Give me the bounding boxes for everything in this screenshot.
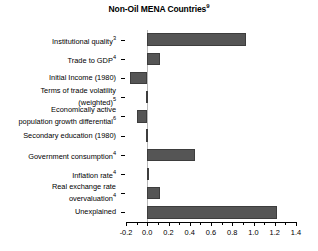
x-axis-tick-major	[275, 222, 276, 226]
chart-title-text: Non-Oil MENA Countries	[109, 4, 207, 14]
x-axis-tick-major	[296, 222, 297, 226]
bar-row	[126, 33, 296, 46]
x-axis-tick-label: 1.2	[270, 228, 280, 237]
y-axis-tick	[121, 155, 125, 156]
x-axis-tick-label: 0.6	[206, 228, 216, 237]
y-axis-label: Real exchange rateovervaluation4	[0, 183, 116, 203]
bar-row	[126, 91, 296, 104]
x-axis-tick-minor	[137, 222, 138, 225]
y-axis-label: Economically activepopulation growth dif…	[0, 106, 116, 126]
y-axis-labels: Institutional quality3Trade to GDP4Initi…	[0, 30, 123, 222]
bar	[147, 206, 277, 219]
x-axis-tick-major	[126, 222, 127, 226]
y-axis-tick	[121, 174, 125, 175]
y-axis-tick	[121, 136, 125, 137]
bar-row	[126, 206, 296, 219]
y-axis-tick	[121, 193, 125, 194]
y-axis-tick	[121, 78, 125, 79]
x-axis-tick-minor	[222, 222, 223, 225]
plot-area	[126, 30, 296, 222]
x-axis-tick-label: -0.2	[120, 228, 133, 237]
x-axis-tick-minor	[179, 222, 180, 225]
bar	[137, 110, 148, 123]
y-axis-label: Inflation rate4	[0, 168, 116, 180]
bar	[147, 53, 160, 66]
x-axis-tick-minor	[285, 222, 286, 225]
bar	[147, 149, 195, 162]
bar-row	[126, 187, 296, 200]
x-axis-tick-minor	[243, 222, 244, 225]
x-axis-tick-major	[169, 222, 170, 226]
x-axis-tick-label: 1.0	[248, 228, 258, 237]
x-axis-tick-major	[232, 222, 233, 226]
y-axis-tick	[121, 40, 125, 41]
x-axis-tick-minor	[158, 222, 159, 225]
y-axis-tick	[121, 116, 125, 117]
y-axis-label: Secondary education (1980)	[0, 131, 116, 139]
x-axis-tick-label: 0.8	[227, 228, 237, 237]
chart-title-footnote-marker: 9	[206, 3, 209, 9]
bar-row	[126, 149, 296, 162]
x-axis-tick-label: 1.4	[291, 228, 301, 237]
x-axis-tick-label: 0.4	[185, 228, 195, 237]
y-axis-label: Trade to GDP4	[0, 53, 116, 65]
bar	[147, 187, 160, 200]
x-axis-tick-major	[211, 222, 212, 226]
x-axis-tick-minor	[200, 222, 201, 225]
bar	[147, 168, 149, 181]
bar	[130, 72, 147, 85]
bar	[146, 129, 148, 142]
bar-row	[126, 72, 296, 85]
bar-row	[126, 129, 296, 142]
y-axis-tick	[121, 97, 125, 98]
chart-title: Non-Oil MENA Countries9	[0, 3, 318, 14]
y-axis-label: Institutional quality3	[0, 34, 116, 46]
y-axis-tick	[121, 59, 125, 60]
x-axis-tick-major	[254, 222, 255, 226]
x-axis-tick-major	[147, 222, 148, 226]
bar-row	[126, 110, 296, 123]
y-axis-tick	[121, 212, 125, 213]
bar-row	[126, 53, 296, 66]
y-axis-label: Unexplained	[0, 208, 116, 216]
x-axis-tick-major	[190, 222, 191, 226]
bar	[146, 91, 148, 104]
chart-container: Non-Oil MENA Countries9 Institutional qu…	[0, 0, 318, 251]
x-axis-tick-label: 0.0	[142, 228, 152, 237]
x-axis-tick-minor	[264, 222, 265, 225]
y-axis-label: Initial Income (1980)	[0, 74, 116, 82]
x-axis-tick-label: 0.2	[163, 228, 173, 237]
bar	[147, 33, 246, 46]
bar-row	[126, 168, 296, 181]
y-axis-label: Government consumption4	[0, 149, 116, 161]
